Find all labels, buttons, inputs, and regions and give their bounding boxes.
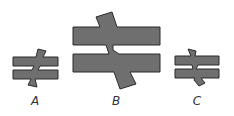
not-equal-shape-a (13, 49, 58, 87)
not-equal-shape-b (73, 12, 160, 89)
label-c: C (193, 94, 201, 108)
label-a: A (31, 94, 39, 108)
not-equal-shape-c (175, 49, 219, 86)
label-b: B (112, 94, 120, 108)
